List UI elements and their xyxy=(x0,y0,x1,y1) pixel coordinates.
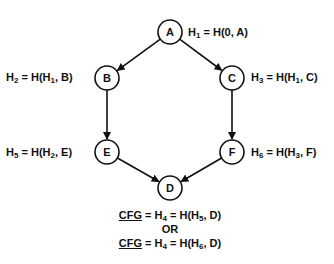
edge-a-c xyxy=(180,39,222,70)
edge-f-d xyxy=(181,158,221,181)
label-h5: H5 = H(H2, E) xyxy=(6,146,72,158)
node-a: A xyxy=(158,20,182,44)
label-h2: H2 = H(H1, B) xyxy=(6,71,73,83)
node-label: F xyxy=(229,146,236,158)
label-h6: H6 = H(H3, F) xyxy=(251,146,316,158)
formula-line-1: CFG = H4 = H(H5, D) xyxy=(70,209,270,221)
label-h3: H3 = H(H1, C) xyxy=(251,71,318,83)
node-f: F xyxy=(220,140,244,164)
node-label: E xyxy=(103,146,110,158)
formula-or: OR xyxy=(70,223,270,235)
node-label: A xyxy=(166,26,174,38)
node-c: C xyxy=(220,66,244,90)
node-label: B xyxy=(103,72,111,84)
formula-line-2: CFG = H4 = H(H6, D) xyxy=(70,237,270,249)
node-label: D xyxy=(166,182,174,194)
node-label: C xyxy=(228,72,236,84)
node-b: B xyxy=(95,66,119,90)
edge-a-b xyxy=(117,39,160,70)
edge-e-d xyxy=(117,158,158,182)
node-d: D xyxy=(158,176,182,200)
label-h1: H1 = H(0, A) xyxy=(188,26,248,38)
node-e: E xyxy=(95,140,119,164)
